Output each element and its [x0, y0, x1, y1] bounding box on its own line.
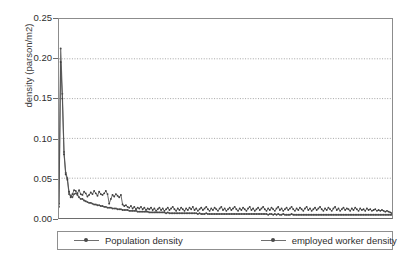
data-point-marker	[108, 207, 110, 209]
data-point-marker	[217, 210, 219, 212]
data-point-marker	[274, 210, 276, 212]
data-point-marker	[122, 209, 124, 211]
data-point-marker	[60, 61, 62, 63]
data-point-marker	[112, 194, 114, 196]
data-point-marker	[128, 207, 130, 209]
legend-item-population-density[interactable]: Population density	[74, 235, 183, 246]
data-point-marker	[182, 212, 184, 214]
data-point-marker	[209, 210, 211, 212]
data-point-marker	[354, 207, 356, 209]
data-point-marker	[107, 207, 109, 209]
data-point-marker	[389, 211, 391, 213]
data-point-marker	[78, 196, 80, 198]
data-point-marker	[361, 214, 363, 216]
data-point-marker	[359, 214, 361, 216]
y-axis-tick-mark	[53, 219, 58, 220]
data-point-marker	[271, 207, 273, 209]
data-point-marker	[158, 211, 160, 213]
data-point-marker	[212, 213, 214, 215]
data-point-marker	[235, 213, 237, 215]
data-point-marker	[71, 193, 73, 195]
data-point-marker	[98, 204, 100, 206]
data-point-marker	[261, 213, 263, 215]
data-point-marker	[359, 208, 361, 210]
data-point-marker	[341, 214, 343, 216]
data-point-marker	[93, 190, 95, 192]
data-point-marker	[366, 208, 368, 210]
data-point-marker	[165, 208, 167, 210]
data-point-marker	[95, 192, 97, 194]
data-point-marker	[145, 209, 147, 211]
data-point-marker	[338, 214, 340, 216]
data-point-marker	[299, 214, 301, 216]
data-point-marker	[107, 193, 109, 195]
data-point-marker	[329, 208, 331, 210]
data-point-marker	[332, 214, 334, 216]
data-point-marker	[341, 208, 343, 210]
data-point-marker	[138, 211, 140, 213]
data-point-marker	[232, 213, 234, 215]
data-point-marker	[135, 208, 137, 210]
data-point-marker	[307, 209, 309, 211]
data-point-marker	[215, 208, 217, 210]
data-point-marker	[312, 208, 314, 210]
data-point-marker	[264, 213, 266, 215]
data-point-marker	[174, 212, 176, 214]
data-point-marker	[167, 211, 169, 213]
data-point-marker	[277, 213, 279, 215]
data-point-marker	[296, 214, 298, 216]
data-point-marker	[102, 194, 104, 196]
data-point-marker	[105, 206, 107, 208]
data-point-marker	[299, 207, 301, 209]
data-point-marker	[202, 209, 204, 211]
data-point-marker	[152, 211, 154, 213]
data-point-marker	[244, 208, 246, 210]
data-point-marker	[356, 214, 358, 216]
data-point-marker	[115, 193, 117, 195]
data-point-marker	[276, 214, 278, 216]
data-point-marker	[115, 208, 117, 210]
data-point-marker	[85, 200, 87, 202]
data-point-marker	[194, 209, 196, 211]
data-point-marker	[150, 207, 152, 209]
data-point-marker	[389, 214, 391, 216]
data-point-marker	[152, 209, 154, 211]
data-point-marker	[110, 207, 112, 209]
legend-item-employed-worker-density[interactable]: employed worker density	[261, 235, 397, 246]
data-point-marker	[287, 214, 289, 216]
series-line	[59, 62, 392, 213]
data-point-marker	[247, 213, 249, 215]
data-point-marker	[381, 209, 383, 211]
data-point-marker	[85, 192, 87, 194]
data-point-marker	[112, 208, 114, 210]
data-point-marker	[378, 214, 380, 216]
data-point-marker	[229, 213, 231, 215]
data-point-marker	[374, 208, 376, 210]
data-point-marker	[309, 208, 311, 210]
data-point-marker	[256, 213, 258, 215]
data-point-marker	[187, 209, 189, 211]
data-point-marker	[282, 213, 284, 215]
data-point-marker	[117, 195, 119, 197]
data-point-marker	[75, 190, 77, 192]
data-point-marker	[225, 210, 227, 212]
data-point-marker	[147, 211, 149, 213]
data-point-marker	[321, 208, 323, 210]
data-point-marker	[118, 208, 120, 210]
data-point-marker	[132, 210, 134, 212]
data-point-marker	[321, 214, 323, 216]
data-point-marker	[272, 208, 274, 210]
data-point-marker	[180, 212, 182, 214]
data-point-marker	[169, 212, 171, 214]
data-point-marker	[296, 208, 298, 210]
chart-legend: Population density employed worker densi…	[57, 231, 393, 250]
data-point-marker	[230, 213, 232, 215]
data-point-marker	[113, 196, 115, 198]
data-point-marker	[224, 208, 226, 210]
data-point-marker	[133, 210, 135, 212]
data-point-marker	[155, 210, 157, 212]
data-point-marker	[120, 208, 122, 210]
data-point-marker	[343, 214, 345, 216]
data-point-marker	[175, 212, 177, 214]
data-point-marker	[219, 208, 221, 210]
